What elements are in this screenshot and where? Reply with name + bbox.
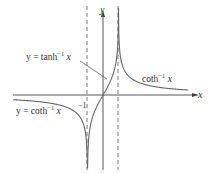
- label-tanh-inverse: y = tanh−1 x: [26, 50, 72, 62]
- label-coth-inverse-left: y = coth−1 x: [16, 104, 62, 116]
- y-axis-label: y: [99, 4, 105, 15]
- tick-label-minus-one: −1: [78, 101, 87, 110]
- graph-canvas: y x y = tanh−1 x coth−1 x y = coth−1 x −…: [0, 0, 211, 173]
- label-coth-inverse-right: coth−1 x: [142, 72, 173, 84]
- x-axis-label: x: [197, 89, 203, 100]
